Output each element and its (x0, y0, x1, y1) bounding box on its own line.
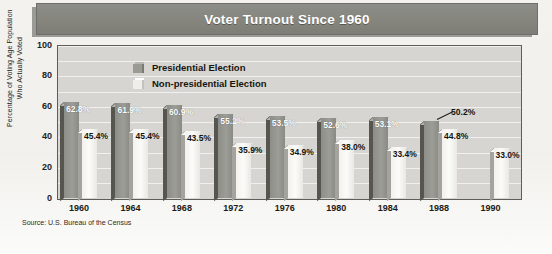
x-tick-1972: 1972 (223, 203, 243, 213)
value-label-nonpresidential-1964: 45.4% (135, 131, 159, 141)
value-label-nonpresidential-1980: 38.0% (341, 142, 365, 152)
y-tick-80: 80 (42, 70, 52, 80)
value-label-presidential-1988: 50.2% (451, 107, 475, 117)
value-label-presidential-1960: 62.8% (66, 104, 90, 114)
value-label-nonpresidential-1960: 45.4% (84, 131, 108, 141)
value-label-nonpresidential-1990: 33.0% (496, 150, 520, 160)
y-tick-100: 100 (37, 40, 52, 50)
x-tick-1984: 1984 (378, 203, 398, 213)
value-label-presidential-1984: 53.1% (375, 119, 399, 129)
value-label-nonpresidential-1988: 44.8% (444, 131, 468, 141)
bar-presidential-1968 (163, 105, 178, 198)
value-label-presidential-1972: 55.2% (220, 116, 244, 126)
value-label-nonpresidential-1984: 33.4% (393, 149, 417, 159)
source-note: Source: U.S. Bureau of the Census (22, 219, 131, 226)
value-label-presidential-1964: 61.9% (117, 105, 141, 115)
chart-title: Voter Turnout Since 1960 (204, 12, 370, 27)
x-tick-1990: 1990 (481, 203, 501, 213)
y-axis-title-line1: Percentage of Voting Age Population (5, 0, 15, 143)
x-tick-1960: 1960 (69, 203, 89, 213)
y-tick-20: 20 (42, 162, 52, 172)
bar-group: 62.8%45.4%61.9%45.4%60.9%43.5%55.2%35.9%… (57, 45, 520, 198)
chart-page: Voter Turnout Since 1960 100 80 60 40 20… (0, 0, 552, 254)
bar-presidential-1988 (420, 121, 435, 198)
y-tick-0: 0 (47, 193, 52, 203)
value-label-presidential-1976: 53.5% (272, 118, 296, 128)
y-tick-40: 40 (42, 131, 52, 141)
y-axis-title-line2: Who Actually Voted (15, 0, 25, 143)
x-tick-1976: 1976 (275, 203, 295, 213)
bar-presidential-1984 (369, 117, 384, 198)
bar-presidential-1960 (60, 102, 75, 198)
value-label-nonpresidential-1976: 34.9% (290, 147, 314, 157)
value-label-nonpresidential-1968: 43.5% (187, 133, 211, 143)
x-tick-1988: 1988 (429, 203, 449, 213)
value-label-presidential-1968: 60.9% (169, 107, 193, 117)
title-banner: Voter Turnout Since 1960 (36, 3, 538, 35)
bar-presidential-1976 (266, 116, 281, 198)
y-axis-title: Percentage of Voting Age Population Who … (5, 0, 25, 143)
bar-presidential-1972 (214, 114, 229, 198)
y-tick-60: 60 (42, 101, 52, 111)
bar-presidential-1964 (111, 103, 126, 198)
x-tick-1964: 1964 (120, 203, 140, 213)
value-label-nonpresidential-1972: 35.9% (238, 145, 262, 155)
x-tick-1968: 1968 (172, 203, 192, 213)
value-label-presidential-1980: 52.6% (323, 120, 347, 130)
x-tick-1980: 1980 (326, 203, 346, 213)
bar-presidential-1980 (317, 118, 332, 198)
